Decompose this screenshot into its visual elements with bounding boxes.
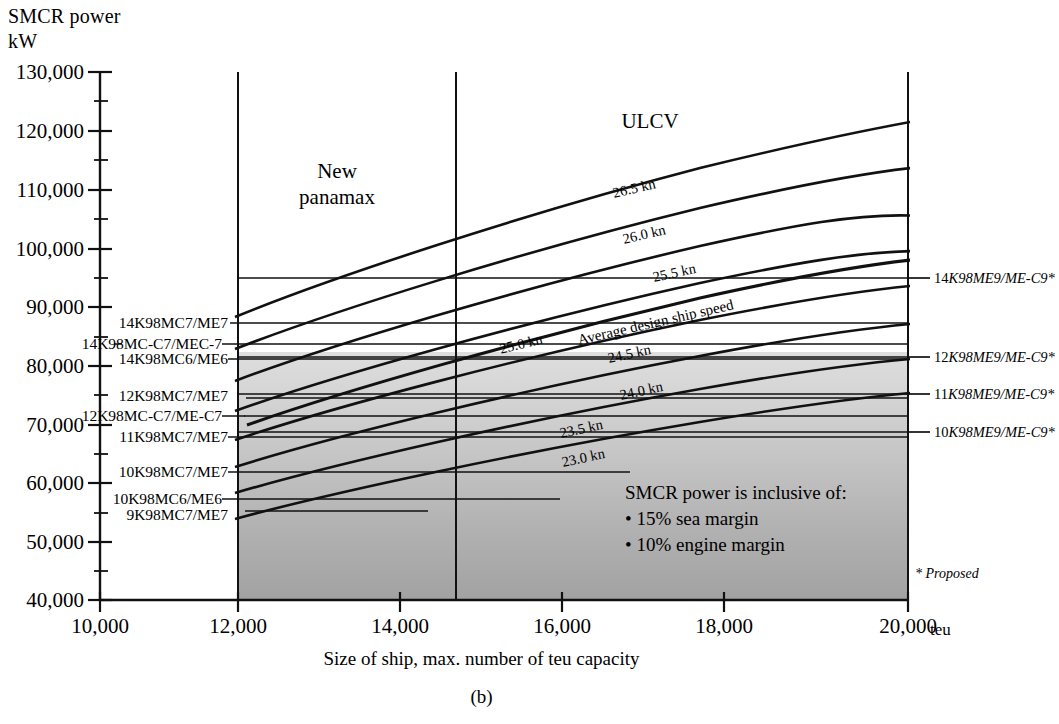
figure-smcr-power: SMCR power kW 130,000 120,000 110,000 10… xyxy=(0,0,1059,724)
y-tick-label: 110,000 xyxy=(0,178,84,203)
engine-label-left: 10K98MC7/ME7 xyxy=(0,463,228,481)
engine-label-right: 10K98ME9/ME-C9* xyxy=(934,424,1055,441)
engine-label-right: 11K98ME9/ME-C9* xyxy=(934,386,1054,403)
y-tick-label: 100,000 xyxy=(0,237,84,262)
x-tick-label: 12,000 xyxy=(178,614,298,639)
x-tick-label: 18,000 xyxy=(664,614,784,639)
engine-label-left: 14K98MC6/ME6 xyxy=(0,350,228,368)
y-axis-title: SMCR power kW xyxy=(8,4,121,54)
engine-label-right-name: K98ME9/ME-C9* xyxy=(949,424,1055,440)
engine-label-right-prefix: 14 xyxy=(934,270,949,286)
engine-label-right-name: K98ME9/ME-C9* xyxy=(949,270,1055,286)
x-tick-label: 10,000 xyxy=(40,614,160,639)
region-label-ulcv: ULCV xyxy=(590,108,710,134)
y-tick-label: 50,000 xyxy=(0,530,84,555)
engine-label-right-prefix: 11 xyxy=(934,386,948,402)
y-axis-title-line2: kW xyxy=(8,29,121,54)
engine-label-right: 14K98ME9/ME-C9* xyxy=(934,270,1055,287)
smcr-note-line3: • 10% engine margin xyxy=(625,532,847,558)
x-tick-label: 14,000 xyxy=(340,614,460,639)
engine-label-right-name: K98ME9/ME-C9* xyxy=(949,349,1055,365)
engine-label-left: 12K98MC7/ME7 xyxy=(0,387,228,405)
engine-label-right-prefix: 10 xyxy=(934,424,949,440)
right-leader-lines xyxy=(908,278,930,432)
smcr-note: SMCR power is inclusive of: • 15% sea ma… xyxy=(625,480,847,558)
engine-label-right-name: K98ME9/ME-C9* xyxy=(948,386,1054,402)
figure-caption: (b) xyxy=(0,686,1011,708)
x-axis-unit: teu xyxy=(930,620,951,640)
x-tick-label: 16,000 xyxy=(502,614,622,639)
engine-label-left: 9K98MC7/ME7 xyxy=(0,506,228,524)
smcr-note-line1: SMCR power is inclusive of: xyxy=(625,480,847,506)
speed-curve-26-5 xyxy=(235,120,921,317)
engine-label-left: 14K98MC7/ME7 xyxy=(0,314,228,332)
smcr-note-line2: • 15% sea margin xyxy=(625,506,847,532)
y-axis-title-line1: SMCR power xyxy=(8,4,121,29)
x-axis-title: Size of ship, max. number of teu capacit… xyxy=(0,648,1011,670)
region-label-new-panamax-line2: panamax xyxy=(272,184,402,210)
proposed-footnote: * Proposed xyxy=(915,566,979,582)
region-label-new-panamax: New panamax xyxy=(272,158,402,210)
engine-label-left: 12K98MC-C7/ME-C7 xyxy=(0,407,222,425)
engine-label-left: 11K98MC7/ME7 xyxy=(0,428,228,446)
y-tick-label: 40,000 xyxy=(0,588,84,613)
region-label-new-panamax-line1: New xyxy=(272,158,402,184)
y-tick-label: 130,000 xyxy=(0,60,84,85)
shaded-envelope xyxy=(238,352,908,600)
y-tick-label: 120,000 xyxy=(0,119,84,144)
engine-label-right-prefix: 12 xyxy=(934,349,949,365)
engine-label-right: 12K98ME9/ME-C9* xyxy=(934,349,1055,366)
